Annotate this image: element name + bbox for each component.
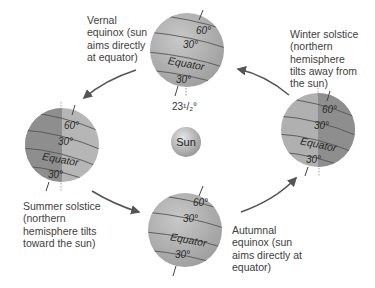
winter-lat-30s: 30°: [306, 154, 321, 165]
summer-lat-30n: 30°: [58, 136, 73, 147]
vernal-lat-30s: 30°: [176, 74, 191, 85]
vernal-lat-60: 60°: [196, 25, 211, 36]
autumnal-lat-30n: 30°: [183, 213, 198, 224]
winter-lat-60: 60°: [322, 104, 337, 115]
tilt-angle-label: 23¹/₂°: [172, 101, 197, 112]
caption-summer-solstice: Summer solstice (northern hemisphere til…: [23, 200, 101, 249]
sun: Sun: [171, 127, 201, 157]
caption-winter-solstice: Winter solstice (northern hemisphere til…: [290, 28, 358, 89]
summer-lat-30s: 30°: [48, 169, 63, 180]
autumnal-lat-60: 60°: [193, 197, 208, 208]
orbit-arrow-winter-to-vernal: [238, 69, 289, 95]
autumnal-lat-30s: 30°: [175, 249, 190, 260]
globe-vernal-equinox: 60° 30° Equator 30°: [148, 10, 226, 97]
globe-autumnal-equinox: 60° 30° Equator 30°: [146, 186, 224, 276]
orbit-arrow-vernal-to-summer: [84, 70, 136, 98]
sun-label: Sun: [176, 136, 196, 148]
summer-lat-60: 60°: [64, 120, 79, 131]
vernal-lat-30n: 30°: [183, 39, 198, 50]
orbit-arrow-autumnal-to-winter: [241, 178, 296, 212]
globe-winter-solstice: 60° 30° Equator 30°: [278, 88, 358, 176]
winter-lat-30n: 30°: [314, 120, 329, 131]
globe-summer-solstice: 60° 30° Equator 30°: [22, 102, 102, 191]
caption-autumnal-equinox: Autumnal equinox (sun aims directly at e…: [232, 224, 302, 273]
caption-vernal-equinox: Vernal equinox (sun aims directly at equ…: [87, 14, 147, 63]
